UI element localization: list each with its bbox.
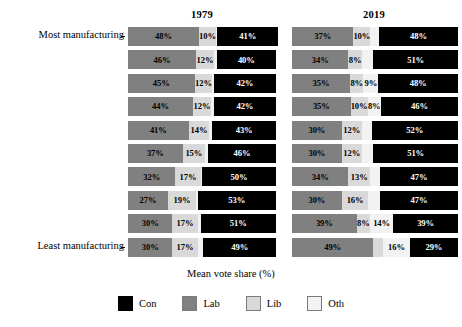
bar-segment-lib: 8%	[357, 214, 370, 233]
bar-segment-value-label: 32%	[143, 173, 160, 182]
bar-segment-value-label: 8%	[357, 219, 370, 228]
bar-segment-value-label: 53%	[228, 196, 245, 205]
x-axis-title: Mean vote share (%)	[0, 268, 462, 279]
bar-segment-oth: 14%	[370, 214, 393, 233]
legend-label: Lab	[203, 298, 219, 309]
stacked-bar: 34%13%47%	[292, 167, 458, 186]
facet-2019-bar-track: 34%8%51%	[292, 50, 458, 69]
bar-segment-lab: 35%	[292, 97, 351, 116]
bar-segment-con: 52%	[372, 121, 458, 140]
bar-segment-lab: 37%	[128, 144, 183, 163]
legend: ConLabLibOth	[0, 296, 462, 311]
bar-segment-oth: 9%	[363, 74, 378, 93]
bar-segment-value-label: 15%	[185, 149, 202, 158]
bar-segment-lib: 15%	[183, 144, 205, 163]
bar-segment-value-label: 42%	[236, 102, 253, 111]
stacked-bar: 30%17%51%	[128, 214, 276, 233]
chart-row: 45%12%42%35%8%9%48%	[0, 73, 462, 95]
chart-row: Most manufacturing48%10%41%37%10%48%	[0, 26, 462, 48]
stacked-bar: 49%16%29%	[292, 238, 458, 257]
stacked-bar: 46%12%40%	[128, 50, 276, 69]
bar-segment-value-label: 50%	[231, 173, 248, 182]
legend-item-oth[interactable]: Oth	[307, 296, 344, 311]
bar-segment-value-label: 8%	[349, 56, 362, 65]
bar-segment-con: 50%	[202, 167, 276, 186]
stacked-bar-chart: 1979 2019 Most manufacturing48%10%41%37%…	[0, 0, 462, 327]
facet-1979-bar-track: 32%17%50%	[128, 167, 276, 186]
bar-segment-value-label: 30%	[308, 196, 325, 205]
bar-segment-con: 48%	[378, 74, 458, 93]
bar-segment-value-label: 49%	[231, 243, 248, 252]
bar-segment-value-label: 34%	[312, 173, 329, 182]
chart-row: 32%17%50%34%13%47%	[0, 166, 462, 188]
bar-segment-lib: 12%	[195, 74, 213, 93]
y-axis-tick-mark	[121, 36, 125, 37]
stacked-bar: 30%12%51%	[292, 144, 458, 163]
bar-segment-lab: 48%	[128, 27, 199, 46]
legend-item-lib[interactable]: Lib	[246, 296, 282, 311]
facet-2019-bar-track: 49%16%29%	[292, 238, 458, 257]
plot-area: Most manufacturing48%10%41%37%10%48%46%1…	[0, 26, 462, 266]
bar-segment-value-label: 44%	[152, 102, 169, 111]
bar-segment-value-label: 10%	[351, 102, 368, 111]
legend-label: Con	[139, 298, 157, 309]
bar-segment-con: 53%	[198, 191, 276, 210]
bar-segment-lib: 8%	[348, 50, 361, 69]
bar-segment-lab: 46%	[128, 50, 196, 69]
chart-row: 46%12%40%34%8%51%	[0, 49, 462, 71]
bar-segment-value-label: 43%	[236, 126, 253, 135]
legend-item-con[interactable]: Con	[118, 296, 157, 311]
legend-item-lab[interactable]: Lab	[182, 296, 219, 311]
bar-segment-value-label: 47%	[411, 173, 428, 182]
bar-segment-value-label: 51%	[407, 149, 424, 158]
chart-row: 37%15%46%30%12%51%	[0, 143, 462, 165]
stacked-bar: 32%17%50%	[128, 167, 276, 186]
bar-segment-con: 42%	[214, 74, 276, 93]
facet-title-1979: 1979	[128, 9, 276, 20]
facet-1979-bar-track: 41%14%43%	[128, 121, 276, 140]
bar-segment-value-label: 14%	[191, 126, 208, 135]
bar-segment-con: 46%	[381, 97, 458, 116]
stacked-bar: 30%12%52%	[292, 121, 458, 140]
stacked-bar: 34%8%51%	[292, 50, 458, 69]
bar-segment-value-label: 12%	[195, 79, 212, 88]
bar-segment-value-label: 8%	[350, 79, 363, 88]
bar-segment-lab: 37%	[292, 27, 353, 46]
bar-segment-lab: 30%	[292, 191, 342, 210]
bar-segment-value-label: 30%	[142, 243, 159, 252]
bar-segment-con: 46%	[208, 144, 276, 163]
bar-segment-value-label: 37%	[314, 32, 331, 41]
bar-segment-oth	[362, 50, 374, 69]
bar-segment-oth: 8%	[368, 97, 381, 116]
bar-segment-value-label: 27%	[140, 196, 157, 205]
bar-segment-lib: 17%	[172, 214, 197, 233]
legend-swatch-lib-icon	[246, 296, 261, 311]
bar-segment-lab: 30%	[128, 238, 172, 257]
bar-segment-lib: 13%	[348, 167, 370, 186]
chart-row: 27%19%53%30%16%47%	[0, 190, 462, 212]
chart-row: 44%12%42%35%10%8%46%	[0, 96, 462, 118]
bar-segment-con: 47%	[380, 191, 458, 210]
bar-segment-value-label: 19%	[174, 196, 191, 205]
bar-segment-lab: 39%	[292, 214, 357, 233]
bar-segment-oth	[370, 27, 378, 46]
y-axis-tick-mark	[121, 247, 125, 248]
bar-segment-lib	[373, 238, 383, 257]
bar-segment-lib: 12%	[342, 144, 362, 163]
bar-segment-value-label: 45%	[153, 79, 170, 88]
bar-segment-value-label: 41%	[239, 32, 256, 41]
facet-2019-bar-track: 30%12%51%	[292, 144, 458, 163]
facet-1979-bar-track: 37%15%46%	[128, 144, 276, 163]
facet-1979-bar-track: 30%17%51%	[128, 214, 276, 233]
bar-segment-value-label: 48%	[410, 32, 427, 41]
bar-segment-con: 42%	[214, 97, 276, 116]
bar-segment-value-label: 17%	[179, 173, 196, 182]
bar-segment-lab: 30%	[128, 214, 172, 233]
stacked-bar: 35%8%9%48%	[292, 74, 458, 93]
bar-segment-lab: 35%	[292, 74, 350, 93]
facet-2019-bar-track: 30%12%52%	[292, 121, 458, 140]
bar-segment-value-label: 39%	[316, 219, 333, 228]
bar-segment-lib: 8%	[350, 74, 363, 93]
bar-segment-lab: 41%	[128, 121, 189, 140]
bar-segment-lib: 12%	[193, 97, 211, 116]
